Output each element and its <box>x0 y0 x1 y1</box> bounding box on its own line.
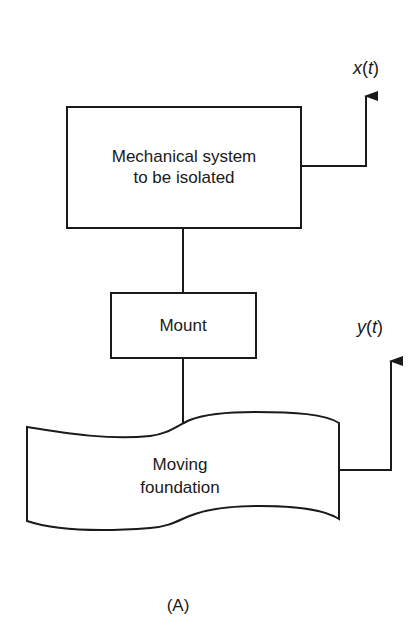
isolation-diagram: Mechanical system to be isolated x(t) Mo… <box>0 0 420 640</box>
foundation-label-line2: foundation <box>140 478 219 497</box>
input-signal-label: y(t) <box>355 317 383 337</box>
mount-label: Mount <box>159 316 207 335</box>
arrow-up-icon <box>339 361 391 470</box>
moving-foundation-shape: Moving foundation <box>27 412 339 530</box>
mount-box: Mount <box>111 293 256 358</box>
output-signal-label: x(t) <box>352 58 379 78</box>
mechanical-system-box: Mechanical system to be isolated <box>67 107 301 228</box>
input-signal-arrow <box>339 361 391 470</box>
output-signal-arrow <box>301 96 366 166</box>
arrow-up-icon <box>301 96 366 166</box>
foundation-label-line1: Moving <box>153 455 208 474</box>
figure-label: (A) <box>167 596 190 615</box>
system-label-line1: Mechanical system <box>112 147 257 166</box>
system-label-line2: to be isolated <box>133 168 234 187</box>
